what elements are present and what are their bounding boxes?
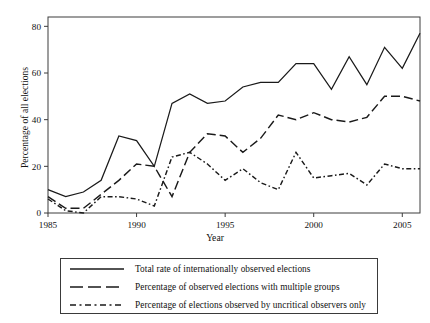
legend-label-multiple-groups: Percentage of observed elections with mu… [126, 282, 340, 292]
line-chart-svg: 02040608019851990199520002005 [0, 0, 430, 250]
legend-label-total: Total rate of internationally observed e… [126, 264, 311, 274]
svg-text:2000: 2000 [305, 220, 324, 230]
plot-area: 02040608019851990199520002005 Percentage… [0, 0, 430, 250]
legend-swatch-dash-dot [68, 300, 126, 310]
data-series-group [48, 33, 420, 213]
y-axis-title: Percentage of all elections [19, 48, 30, 188]
legend-item-multiple-groups: Percentage of observed elections with mu… [61, 278, 377, 295]
axes-frame [48, 17, 420, 213]
series-line [48, 33, 420, 196]
axis-ticks [44, 26, 402, 217]
chart-legend: Total rate of internationally observed e… [60, 258, 378, 314]
legend-swatch-solid [68, 264, 126, 274]
series-line [48, 152, 420, 213]
axis-tick-labels: 02040608019851990199520002005 [32, 22, 412, 230]
svg-text:1985: 1985 [39, 220, 58, 230]
svg-text:0: 0 [36, 208, 41, 218]
legend-label-uncritical: Percentage of elections observed by uncr… [126, 300, 366, 310]
svg-text:20: 20 [32, 162, 42, 172]
series-line [48, 96, 420, 208]
legend-item-uncritical: Percentage of elections observed by uncr… [61, 296, 377, 313]
chart-figure: 02040608019851990199520002005 Percentage… [0, 0, 430, 323]
svg-text:1995: 1995 [216, 220, 235, 230]
svg-text:40: 40 [32, 115, 42, 125]
legend-item-total: Total rate of internationally observed e… [61, 260, 377, 277]
x-axis-title: Year [0, 232, 430, 243]
svg-text:60: 60 [32, 68, 42, 78]
svg-text:2005: 2005 [393, 220, 412, 230]
legend-swatch-dashed [68, 282, 126, 292]
svg-text:80: 80 [32, 22, 42, 32]
svg-text:1990: 1990 [127, 220, 146, 230]
